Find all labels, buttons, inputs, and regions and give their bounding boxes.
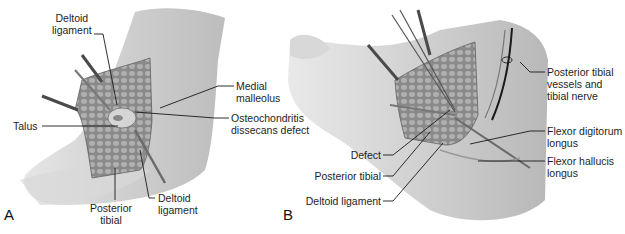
label-line: Posterior xyxy=(90,202,132,214)
label-line: Osteochondritis xyxy=(231,112,309,124)
label-line: Flexor digitorum xyxy=(547,125,622,137)
ankle-surgery-figure: Deltoid ligament Medial malleolus Talus … xyxy=(0,0,625,234)
label-line: Deltoid ligament xyxy=(296,195,381,207)
label-line: Medial xyxy=(236,80,280,92)
label-line: tibial xyxy=(90,214,132,226)
label-line: Deltoid xyxy=(52,12,92,24)
label-a-posterior-tibial: Posterior tibial xyxy=(90,202,132,226)
label-line: Posterior tibial xyxy=(547,66,614,78)
label-b-posterior-tibial-vessels: Posterior tibial vessels and tibial nerv… xyxy=(547,66,614,102)
label-b-posterior-tibial: Posterior tibial xyxy=(300,170,381,182)
label-a-medial-malleolus: Medial malleolus xyxy=(236,80,280,104)
label-line: Flexor hallucis xyxy=(547,155,614,167)
label-b-flexor-hallucis: Flexor hallucis longus xyxy=(547,155,614,179)
label-line: Defect xyxy=(330,149,381,161)
label-line: dissecans defect xyxy=(231,124,309,136)
label-line: longus xyxy=(547,167,614,179)
label-line: vessels and xyxy=(547,78,614,90)
label-line: longus xyxy=(547,137,622,149)
panel-b-art xyxy=(288,10,548,220)
label-a-deltoid-ligament-bottom: Deltoid ligament xyxy=(158,192,198,216)
label-line: ligament xyxy=(158,204,198,216)
label-line: Talus xyxy=(13,120,38,132)
panel-letter-a: A xyxy=(4,206,14,223)
label-a-deltoid-ligament-top: Deltoid ligament xyxy=(52,12,92,36)
label-line: Deltoid xyxy=(158,192,198,204)
label-b-defect: Defect xyxy=(330,149,381,161)
panel-a-art xyxy=(20,8,225,205)
label-b-flexor-digitorum: Flexor digitorum longus xyxy=(547,125,622,149)
label-line: Posterior tibial xyxy=(300,170,381,182)
label-line: malleolus xyxy=(236,92,280,104)
label-line: tibial nerve xyxy=(547,90,614,102)
label-line: ligament xyxy=(52,24,92,36)
label-a-osteochondritis: Osteochondritis dissecans defect xyxy=(231,112,309,136)
label-b-deltoid-ligament: Deltoid ligament xyxy=(296,195,381,207)
label-a-talus: Talus xyxy=(13,120,38,132)
panel-letter-b: B xyxy=(283,206,293,223)
